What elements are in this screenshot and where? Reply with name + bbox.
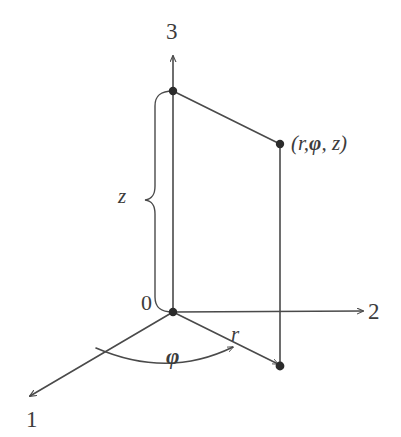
point-z-sym: z [332,131,340,155]
point-comma-2: , [321,131,332,155]
paren-open: ( [291,131,298,155]
origin-label: 0 [141,292,152,314]
r-vector-line [173,312,278,364]
axis-1-line [30,312,173,396]
phi-label: φ [166,345,179,368]
paren-close: ) [340,131,347,155]
axis-2-line [173,311,363,312]
r-label: r [231,324,239,345]
top-connector-line [173,91,280,144]
axis-3-label: 3 [166,20,178,43]
point-markers [169,87,285,371]
figure-canvas [0,0,401,437]
point-space [276,140,284,148]
point-phi-sym: φ [309,131,321,155]
point-ground [276,362,285,371]
phi-arc [96,347,233,363]
point-origin [169,308,177,316]
space-point-label: (r,φ, z) [291,133,347,154]
point-z-top [169,87,177,95]
z-brace [145,91,173,312]
axis-2-label: 2 [368,300,380,323]
z-label: z [118,186,126,207]
cylindrical-coordinates-figure: 3 2 1 0 z r φ (r,φ, z) [0,0,401,437]
axis-1-label: 1 [26,408,38,431]
